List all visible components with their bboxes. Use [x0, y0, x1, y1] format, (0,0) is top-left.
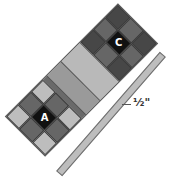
dimension-label: ½": [133, 96, 150, 109]
dimension-leader-line: [122, 104, 131, 105]
block-c-label: C: [114, 37, 121, 48]
block-a-label: A: [40, 112, 48, 123]
